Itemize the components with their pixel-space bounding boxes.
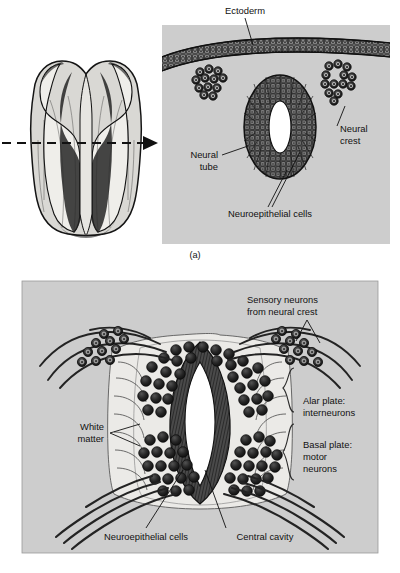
label-central-cavity: Central cavity	[237, 531, 294, 542]
label-basal-plate-line3: neurons	[303, 463, 337, 474]
neural-tube-lumen	[269, 101, 291, 153]
label-alar-plate-line1: Alar plate:	[303, 395, 345, 406]
embryo-neural-groove	[80, 74, 92, 236]
label-alar-plate-line2: interneurons	[303, 407, 355, 418]
label-neuroepithelial-cells-a: Neuroepithelial cells	[228, 208, 312, 219]
label-neuroepithelial-cells-b: Neuroepithelial cells	[104, 531, 188, 542]
label-neural-crest-line1: Neural	[340, 123, 368, 134]
label-basal-plate-line2: motor	[303, 451, 327, 462]
label-ectoderm: Ectoderm	[225, 5, 265, 16]
label-sensory-neurons-line1: Sensory neurons	[247, 294, 318, 305]
label-neural-tube-line1: Neural	[190, 149, 218, 160]
figure-canvas: Ectoderm Neural tube Neural crest Neuroe…	[0, 0, 400, 573]
label-basal-plate-line1: Basal plate:	[303, 439, 352, 450]
label-white-matter-line2: matter	[77, 433, 104, 444]
label-neural-tube-line2: tube	[200, 161, 218, 172]
figure-root: Ectoderm Neural tube Neural crest Neuroe…	[0, 0, 400, 573]
panel-a-letter: (a)	[189, 250, 200, 260]
label-neural-crest-line2: crest	[340, 135, 361, 146]
embryo-dorsal-view	[31, 61, 142, 238]
label-sensory-neurons-line2: from neural crest	[247, 306, 318, 317]
panel-b: Sensory neurons from neural crest Alar p…	[22, 281, 378, 553]
label-white-matter-line1: White	[80, 421, 104, 432]
neural-tube	[244, 75, 316, 179]
